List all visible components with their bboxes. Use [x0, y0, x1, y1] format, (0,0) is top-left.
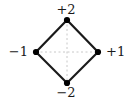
vertex-left-point: [33, 49, 39, 55]
dashed-axes-group: [36, 20, 98, 83]
edge-top-right: [67, 20, 98, 52]
vertex-top-point: [64, 17, 70, 23]
vertex-label-bottom: −2: [0, 86, 132, 99]
edge-left-top: [36, 20, 67, 52]
diamond-figure: +2 +1 −2 −1: [0, 0, 132, 104]
vertex-label-left: −1: [0, 45, 28, 58]
edge-bottom-left: [36, 52, 67, 83]
vertex-label-right: +1: [106, 45, 132, 58]
vertex-label-top: +2: [0, 3, 132, 16]
vertex-right-point: [95, 49, 101, 55]
edge-right-bottom: [67, 52, 98, 83]
